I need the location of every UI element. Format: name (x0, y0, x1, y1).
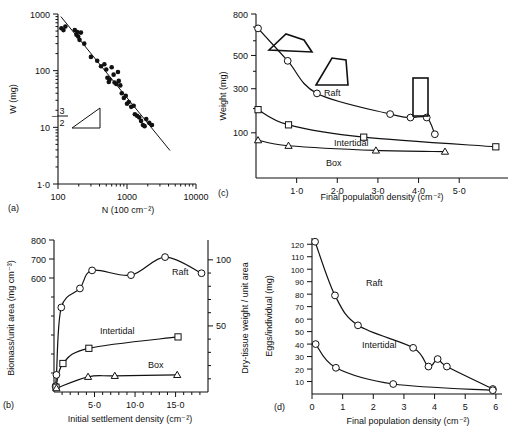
y-tick-label: 100 (35, 66, 50, 76)
x-tick-label: 10·0 (126, 400, 144, 410)
x-tick-label: 2 (371, 402, 376, 412)
data-point (162, 254, 169, 261)
data-point (410, 344, 417, 351)
data-point (107, 77, 112, 82)
data-point (95, 58, 100, 63)
panel-d-curves (315, 242, 493, 391)
panel-c-y-ticks: 100300500800 (233, 10, 256, 139)
x-tick-label: 4 (432, 402, 437, 412)
data-point (116, 79, 121, 84)
slope-denominator: 2 (59, 118, 64, 128)
data-point (255, 25, 262, 32)
panel-b-y-axis-title-right: Dry-tissue weight / unit area (240, 262, 250, 374)
panel-a-label: (a) (8, 203, 19, 213)
data-point (63, 24, 68, 29)
panel-b-x-ticks: 5·010·015·0 (62, 392, 200, 410)
panel-a-y-ticks: 1·0101001000 (30, 10, 58, 190)
panel-b-label: (b) (3, 400, 14, 410)
data-point (104, 67, 109, 72)
x-tick-label: 6 (493, 402, 498, 412)
panel-b: 600700800 50100 5·010·015·0 RaftIntertid… (0, 222, 262, 437)
x-tick-label: 5 (463, 402, 468, 412)
data-point (284, 57, 291, 64)
data-point (123, 94, 128, 99)
data-point (131, 103, 136, 108)
series-label: Intertidal (362, 340, 397, 350)
y-tick-label: 50 (295, 328, 304, 337)
panel-b-axes (54, 240, 208, 392)
y-tick-label: 1000 (30, 10, 50, 20)
data-point (119, 91, 124, 96)
panel-b-series-labels: RaftIntertidalBox (100, 267, 189, 370)
y-tick-label: 10 (40, 123, 50, 133)
data-point (111, 72, 116, 77)
panel-a-y-axis-title: W (mg) (8, 84, 18, 114)
data-point (77, 38, 82, 43)
panel-a-x-ticks: 100100010000 (50, 184, 208, 202)
data-point (128, 272, 135, 279)
panel-c-data-points (254, 25, 498, 154)
x-tick-label: 1 (340, 402, 345, 412)
panel-b-x-axis-title: Initial settlement density (cm⁻²) (68, 414, 193, 424)
data-point (102, 62, 107, 67)
y-tick-label: 70 (295, 303, 304, 312)
panel-c-plot: 100300500800 1·02·03·04·05·0 RaftInterti… (216, 0, 516, 218)
data-point (118, 83, 123, 88)
data-point (355, 322, 362, 329)
data-point (285, 122, 291, 128)
panel-b-y-ticks-left: 600700800 (31, 236, 54, 374)
panel-c-series-labels: RaftIntertidalBox (324, 88, 369, 168)
data-point (53, 372, 60, 379)
y-tick-label: 300 (233, 84, 248, 94)
data-point (60, 360, 66, 366)
data-point (314, 90, 321, 97)
slope-triangle-icon (72, 108, 100, 128)
panel-d-x-axis-title: Final population density (cm⁻²) (346, 416, 469, 426)
narrow-tall-shell-icon (413, 78, 428, 116)
data-point (58, 304, 65, 311)
series-label: Intertidal (334, 138, 369, 148)
panel-c: 100300500800 1·02·03·04·05·0 RaftInterti… (216, 0, 516, 218)
panel-d-series-labels: RaftIntertidal (362, 278, 397, 350)
data-point (443, 363, 450, 370)
panel-c-axes (256, 14, 508, 178)
data-point (139, 119, 144, 124)
y-tick-label-right: 100 (216, 255, 231, 265)
y-tick-label: 700 (31, 255, 46, 265)
data-point (431, 131, 438, 138)
data-point (150, 123, 155, 128)
panel-a: 1·0101001000 100100010000 – 3 2 W (mg) N… (0, 0, 225, 218)
data-point (109, 65, 114, 70)
y-tick-label: 1·0 (37, 180, 50, 190)
data-point (144, 117, 149, 122)
data-point (126, 100, 131, 105)
panel-d-y-axis-title: Eggs/individual (mg) (264, 275, 274, 357)
panel-d-y-ticks: 102030405060708090100110120 (291, 241, 312, 387)
panel-d-plot: 102030405060708090100110120 0123456 Raft… (256, 222, 516, 437)
data-point (142, 124, 147, 129)
x-tick-label: 5·0 (453, 186, 466, 196)
slope-minus-sign: – (52, 111, 57, 121)
y-tick-label: 800 (233, 10, 248, 20)
y-tick-label: 90 (295, 278, 304, 287)
data-point (390, 381, 397, 388)
data-point (79, 30, 84, 35)
panel-a-data-points (59, 24, 154, 128)
y-tick-label: 40 (295, 341, 304, 350)
data-point (312, 238, 319, 245)
panel-c-label: (c) (218, 188, 229, 198)
x-tick-label: 100 (50, 192, 65, 202)
data-point (489, 387, 496, 394)
slope-numerator: 3 (59, 106, 64, 116)
series-label: Raft (324, 88, 341, 98)
panel-b-y-axis-title-left: Biomass/unit area (mg cm⁻³) (6, 260, 16, 376)
y-tick-label: 600 (31, 274, 46, 284)
series-label: Raft (366, 278, 383, 288)
data-point (387, 111, 394, 118)
series-label: Raft (172, 267, 189, 277)
x-tick-label: 15·0 (167, 400, 185, 410)
panel-c-x-axis-title: Final population density (cm⁻²) (320, 192, 443, 202)
data-point (332, 292, 339, 299)
data-point (493, 144, 499, 150)
panel-b-y-ticks-right: 50100 (208, 255, 231, 378)
